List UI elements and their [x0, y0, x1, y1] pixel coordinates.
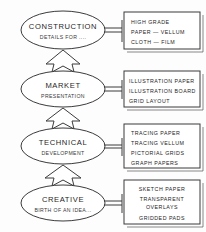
- stage-creative-subtitle: BIRTH OF AN IDEA...: [35, 207, 92, 213]
- process-flow-diagram: CONSTRUCTION DETAILS FOR .... HIGH GRADE…: [0, 0, 206, 232]
- stage-construction-subtitle: DETAILS FOR ....: [40, 34, 86, 40]
- materials-box-market[interactable]: ILLUSTRATION PAPER ILLUSTRATION BOARD GR…: [124, 71, 203, 110]
- material-item: HIGH GRADE: [131, 19, 170, 25]
- materials-box-technical[interactable]: TRACING PAPER TRACING VELLUM PICTORIAL G…: [124, 124, 203, 171]
- connector-creative: [104, 194, 122, 213]
- up-arrow-icon: [46, 108, 80, 129]
- arrow-creative-to-technical: [45, 165, 81, 186]
- materials-box-construction[interactable]: HIGH GRADE PAPER — VELLUM CLOTH — FILM: [124, 12, 203, 52]
- stage-creative[interactable]: CREATIVE BIRTH OF AN IDEA...: [21, 185, 105, 221]
- material-item: PICTORIAL GRIDS: [131, 150, 184, 156]
- material-item: SKETCH PAPER: [139, 186, 186, 192]
- material-item: TRANSPARENT: [140, 196, 185, 202]
- diagram-canvas: CONSTRUCTION DETAILS FOR .... HIGH GRADE…: [0, 0, 206, 232]
- stage-construction-title: CONSTRUCTION: [29, 22, 97, 31]
- materials-box-creative[interactable]: SKETCH PAPER TRANSPARENT OVERLAYS GRIDDE…: [124, 180, 203, 227]
- stage-technical-title: TECHNICAL: [39, 138, 87, 147]
- stage-construction[interactable]: CONSTRUCTION DETAILS FOR ....: [21, 11, 105, 49]
- connector-technical: [104, 138, 122, 156]
- connector-market: [104, 80, 122, 99]
- up-arrow-icon: [45, 165, 81, 186]
- stage-market-title: MARKET: [45, 81, 80, 90]
- arrow-technical-to-market: [46, 108, 80, 129]
- material-item: TRACING PAPER: [131, 130, 180, 136]
- material-item: OVERLAYS: [146, 204, 178, 210]
- material-item: GRID LAYOUT: [129, 98, 170, 104]
- stage-technical[interactable]: TECHNICAL DEVELOPMENT: [21, 128, 105, 164]
- stage-market-subtitle: PRESENTATION: [41, 93, 85, 99]
- connector-construction: [104, 20, 122, 42]
- arrow-market-to-construction: [46, 50, 80, 72]
- material-item: ILLUSTRATION BOARD: [129, 88, 196, 94]
- material-item: TRACING VELLUM: [131, 140, 185, 146]
- stage-market[interactable]: MARKET PRESENTATION: [21, 71, 105, 107]
- material-item: CLOTH — FILM: [131, 39, 175, 45]
- stage-technical-subtitle: DEVELOPMENT: [41, 150, 85, 156]
- material-item: GRIDDED PADS: [139, 215, 185, 221]
- material-item: PAPER — VELLUM: [131, 29, 185, 35]
- material-item: GRAPH PAPERS: [131, 160, 178, 166]
- material-item: ILLUSTRATION PAPER: [129, 78, 195, 84]
- stage-creative-title: CREATIVE: [42, 195, 84, 204]
- up-arrow-icon: [46, 50, 80, 72]
